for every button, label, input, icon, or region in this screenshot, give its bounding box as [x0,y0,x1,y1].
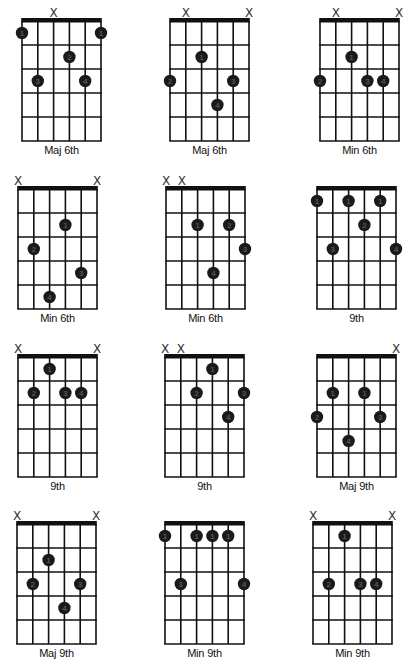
fretboard-grid: XX1234 [166,189,246,310]
chord-name-label: Maj 6th [2,144,122,156]
chord-name-label: Min 6th [146,312,266,324]
finger-number: 4 [242,580,247,589]
finger-number: 3 [36,77,41,86]
finger-dot: 3 [32,75,44,87]
finger-dot: 4 [238,578,250,590]
finger-dot: 1 [43,363,55,375]
finger-dot: 4 [43,291,55,303]
finger-number: 1 [99,29,104,38]
muted-string-x-icon: X [93,174,101,188]
muted-string-x-icon: X [388,509,396,523]
finger-dot: 2 [27,578,39,590]
finger-number: 2 [194,389,199,398]
chord-name-label: Maj 6th [150,144,270,156]
finger-dot: 3 [227,75,239,87]
muted-string-x-icon: X [161,342,169,356]
finger-dot: 1 [342,195,354,207]
nut [316,186,397,191]
finger-number: 2 [318,77,323,86]
finger-number: 1 [331,389,336,398]
finger-number: 2 [31,580,36,589]
finger-dot: 4 [377,75,389,87]
finger-dot: 1 [222,530,234,542]
finger-number: 1 [20,29,25,38]
chord-diagram: XX12349th [165,357,244,497]
finger-dot: 1 [338,530,350,542]
finger-number: 2 [168,77,173,86]
fretboard-grid: X11234 [22,21,102,142]
finger-dot: 2 [164,75,176,87]
finger-dot: 3 [239,243,251,255]
muted-string-x-icon: X [14,174,22,188]
finger-dot: 4 [370,578,382,590]
finger-dot: 3 [75,267,87,279]
chord-diagram: XX1234Min 9th [313,524,392,664]
finger-number: 1 [194,532,199,541]
finger-dot: 2 [358,219,370,231]
finger-dot: 1 [327,387,339,399]
muted-string-x-icon: X [13,509,21,523]
chord-name-label: 9th [145,480,265,492]
finger-dot: 1 [190,530,202,542]
finger-number: 4 [346,437,351,446]
finger-dot: 3 [354,578,366,590]
finger-number: 4 [394,245,399,254]
finger-number: 1 [362,389,367,398]
chord-name-label: 9th [0,480,118,492]
finger-dot: 3 [74,578,86,590]
finger-number: 1 [378,197,383,206]
finger-dot: 2 [190,387,202,399]
muted-string-x-icon: X [182,6,190,20]
finger-dot: 1 [159,530,171,542]
chord-diagram: X11234Maj 6th [22,21,101,161]
finger-dot: 4 [222,411,234,423]
chord-name-label: Min 9th [293,647,410,659]
nut [164,521,245,526]
finger-dot: 1 [95,27,107,39]
chord-diagram: XX1234Min 6th [320,21,399,161]
finger-number: 4 [381,77,386,86]
muted-string-x-icon: X [392,342,400,356]
finger-number: 1 [210,365,215,374]
muted-string-x-icon: X [93,342,101,356]
finger-dot: 2 [323,578,335,590]
chord-name-label: Maj 9th [0,647,117,659]
nut [316,354,397,359]
finger-number: 1 [349,53,354,62]
chord-diagram: XX1234Maj 9th [17,524,96,664]
finger-number: 2 [362,221,367,230]
muted-string-x-icon: X [332,6,340,20]
finger-number: 1 [199,53,204,62]
finger-number: 3 [242,389,247,398]
fretboard-grid: XX1234 [170,21,250,142]
finger-number: 2 [327,580,332,589]
finger-number: 1 [163,532,168,541]
finger-dot: 1 [345,51,357,63]
finger-dot: 3 [238,387,250,399]
finger-number: 3 [378,413,383,422]
finger-number: 2 [315,413,320,422]
fretboard-grid: XX1234 [17,524,97,645]
finger-number: 3 [231,77,236,86]
nut [312,521,393,526]
finger-dot: 3 [175,578,187,590]
nut [21,18,102,23]
finger-number: 2 [32,245,37,254]
finger-number: 4 [374,580,379,589]
finger-number: 1 [342,532,347,541]
finger-dot: 2 [314,75,326,87]
nut [17,186,98,191]
finger-dot: 1 [191,219,203,231]
muted-string-x-icon: X [92,509,100,523]
muted-string-x-icon: X [162,174,170,188]
finger-number: 2 [67,53,72,62]
fretboard-grid: XX1234 [18,357,98,478]
finger-number: 3 [79,269,84,278]
fretboard-grid: XX1234 [165,357,245,478]
finger-dot: 2 [28,243,40,255]
finger-number: 1 [346,197,351,206]
muted-string-x-icon: X [395,6,403,20]
chord-diagram: X11234Maj 9th [317,357,396,497]
finger-dot: 2 [28,387,40,399]
finger-number: 4 [47,293,52,302]
